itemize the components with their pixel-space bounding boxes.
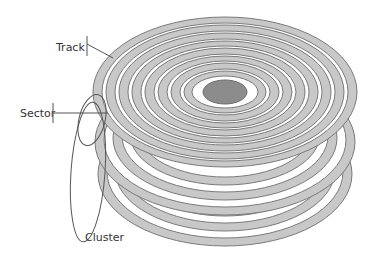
hub xyxy=(203,80,247,104)
disk-diagram: Track Sector Cluster xyxy=(0,0,383,274)
track-leader xyxy=(87,44,113,58)
label-sector: Sector xyxy=(20,107,56,120)
platter-1 xyxy=(93,17,357,167)
label-track: Track xyxy=(55,41,85,54)
label-cluster: Cluster xyxy=(85,231,125,244)
